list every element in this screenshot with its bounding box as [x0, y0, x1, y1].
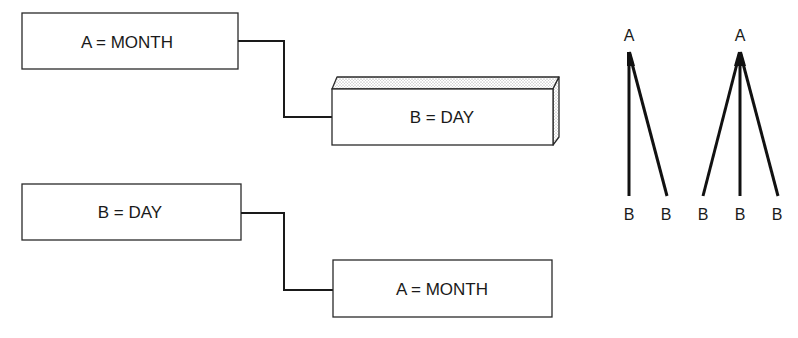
tree2-apex — [734, 52, 746, 66]
tree2-root-label: A — [735, 27, 746, 44]
box-month-parent: A = MONTH — [22, 13, 238, 69]
tree2-edge-1 — [703, 52, 740, 196]
pair-month-over-day: A = MONTH B = DAY — [22, 13, 559, 145]
tree2-leaf-1-label: B — [698, 206, 709, 223]
tree1-leaf-1-label: B — [624, 206, 635, 223]
box-day-child-3d: B = DAY — [332, 77, 559, 145]
box-day-child-label: B = DAY — [410, 108, 474, 127]
hierarchy-diagram: A = MONTH B = DAY B = DAY A = MONTH A — [0, 0, 798, 338]
pair-day-over-month: B = DAY A = MONTH — [22, 184, 552, 317]
box-month-child-label: A = MONTH — [396, 280, 488, 299]
tree-two-leaves: A B B — [624, 27, 672, 223]
slab-top-face — [332, 77, 559, 89]
tree2-leaf-3-label: B — [772, 206, 783, 223]
connector-day-to-month — [241, 213, 333, 290]
tree1-leaf-2-label: B — [661, 206, 672, 223]
tree1-apex — [627, 52, 635, 66]
tree-three-leaves: A B B B — [698, 27, 783, 223]
tree1-edge-2 — [629, 52, 667, 196]
slab-side-face — [553, 77, 559, 145]
box-month-parent-label: A = MONTH — [81, 33, 173, 52]
box-day-parent-label: B = DAY — [98, 203, 162, 222]
tree1-root-label: A — [624, 27, 635, 44]
box-day-parent: B = DAY — [22, 184, 241, 240]
connector-month-to-day — [238, 41, 332, 117]
box-month-child: A = MONTH — [333, 260, 552, 317]
tree2-edge-3 — [740, 52, 778, 196]
tree2-leaf-2-label: B — [735, 206, 746, 223]
